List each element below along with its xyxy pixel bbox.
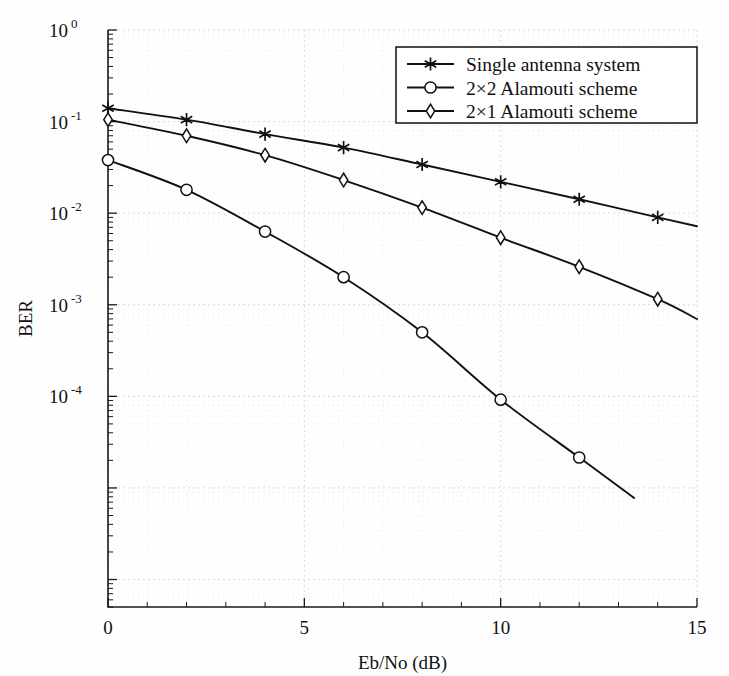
data-point-marker-diamond — [182, 129, 190, 143]
y-tick-label-exponent: -2 — [71, 199, 82, 214]
x-axis-title: Eb/No (dB) — [358, 652, 447, 674]
data-point-marker-circle — [338, 272, 349, 283]
x-tick-label: 10 — [491, 617, 510, 638]
y-tick-label-exponent: -1 — [71, 108, 82, 123]
data-point-marker-circle — [417, 327, 428, 338]
data-point-marker-circle — [181, 184, 192, 195]
curves-layer — [108, 108, 697, 498]
y-tick-label-base: 10 — [49, 203, 68, 224]
data-point-marker-diamond — [261, 148, 269, 162]
y-tick-label: 10-1 — [49, 108, 82, 133]
legend-entry-label: 2×1 Alamouti scheme — [466, 101, 637, 122]
data-point-marker-circle — [495, 394, 506, 405]
data-point-marker-circle — [102, 154, 113, 165]
data-point-marker-diamond — [496, 231, 504, 245]
data-point-marker-circle-legend — [425, 82, 436, 93]
y-tick-label-exponent: 0 — [71, 16, 78, 31]
x-tick-label: 15 — [688, 617, 707, 638]
legend-entry-label: 2×2 Alamouti scheme — [466, 78, 637, 99]
y-tick-label: 10-4 — [49, 382, 82, 407]
series-line-diamond — [108, 120, 697, 319]
y-tick-label-exponent: -3 — [71, 291, 82, 306]
y-tick-label-base: 10 — [49, 295, 68, 316]
ber-vs-ebno-plot: 10010-110-210-310-4051015Eb/No (dB)BER S… — [0, 0, 729, 676]
y-tick-label-base: 10 — [49, 20, 68, 41]
chart-legend: Single antenna system2×2 Alamouti scheme… — [396, 47, 697, 123]
x-tick-label: 5 — [300, 617, 310, 638]
y-tick-label: 10-2 — [49, 199, 82, 224]
data-point-marker-diamond — [339, 173, 347, 187]
y-tick-label: 100 — [49, 16, 78, 41]
data-point-marker-circle — [574, 452, 585, 463]
y-tick-label-base: 10 — [49, 112, 68, 133]
y-tick-label-exponent: -4 — [71, 382, 82, 397]
legend-entry-label: Single antenna system — [466, 54, 640, 75]
y-axis-title: BER — [15, 300, 36, 337]
data-point-marker-diamond — [654, 292, 662, 306]
y-tick-label: 10-3 — [49, 291, 82, 316]
data-point-marker-diamond — [104, 113, 112, 127]
ber-chart-figure: 10010-110-210-310-4051015Eb/No (dB)BER S… — [0, 0, 729, 676]
series-line-circle — [108, 160, 634, 498]
x-tick-label: 0 — [103, 617, 113, 638]
data-point-marker-diamond — [575, 260, 583, 274]
data-point-marker-circle — [259, 226, 270, 237]
y-tick-label-base: 10 — [49, 386, 68, 407]
data-point-marker-diamond — [418, 201, 426, 215]
